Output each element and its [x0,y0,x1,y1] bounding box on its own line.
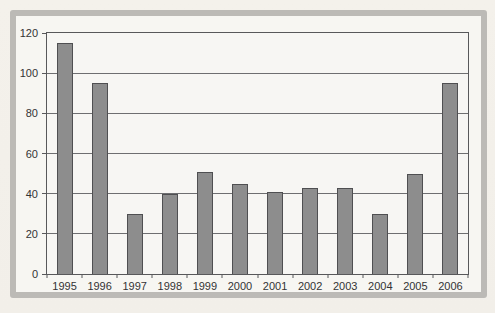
y-axis-tick-80 [42,113,47,114]
y-axis-label-40: 40 [8,188,38,200]
bar-1995 [57,43,73,274]
bar-1997 [127,214,143,274]
bar-2000 [232,184,248,274]
chart-frame: 0204060801001201995199619971998199920002… [10,10,487,298]
x-axis-label-2006: 2006 [432,280,468,292]
y-axis-tick-20 [42,233,47,234]
y-axis-label-120: 120 [8,27,38,39]
x-axis-tick-5 [222,274,223,278]
gridline-y-40 [47,193,468,194]
x-axis-label-1998: 1998 [152,280,188,292]
x-axis-tick-6 [257,274,258,278]
x-axis-label-2002: 2002 [292,280,328,292]
gridline-y-100 [47,73,468,74]
x-axis-tick-3 [152,274,153,278]
x-axis-tick-1 [82,274,83,278]
x-axis-label-2003: 2003 [327,280,363,292]
bar-1999 [197,172,213,274]
x-axis-tick-10 [397,274,398,278]
x-axis-tick-8 [327,274,328,278]
x-axis-tick-7 [292,274,293,278]
bar-2002 [302,188,318,274]
x-axis-label-1997: 1997 [117,280,153,292]
y-axis-label-100: 100 [8,67,38,79]
y-axis-label-80: 80 [8,107,38,119]
y-axis-label-0: 0 [8,268,38,280]
y-axis-tick-60 [42,153,47,154]
y-axis-tick-120 [42,33,47,34]
bar-1996 [92,83,108,274]
y-axis-label-20: 20 [8,228,38,240]
y-axis-tick-100 [42,73,47,74]
gridline-y-60 [47,153,468,154]
y-axis-label-60: 60 [8,148,38,160]
x-axis-label-1999: 1999 [187,280,223,292]
x-axis-label-2001: 2001 [257,280,293,292]
x-axis-tick-12 [468,274,469,278]
x-axis-tick-2 [117,274,118,278]
bar-2001 [267,192,283,274]
x-axis-label-1996: 1996 [82,280,118,292]
y-axis-tick-40 [42,193,47,194]
x-axis-label-2004: 2004 [362,280,398,292]
x-axis-label-1995: 1995 [47,280,83,292]
x-axis-tick-11 [432,274,433,278]
gridline-y-80 [47,113,468,114]
bar-2005 [407,174,423,274]
x-axis-label-2000: 2000 [222,280,258,292]
x-axis-tick-4 [187,274,188,278]
x-axis-label-2005: 2005 [397,280,433,292]
plot-area: 0204060801001201995199619971998199920002… [46,32,469,275]
x-axis-tick-9 [362,274,363,278]
gridline-y-20 [47,233,468,234]
bar-2006 [442,83,458,274]
bar-2004 [372,214,388,274]
x-axis-tick-0 [47,274,48,278]
bar-1998 [162,194,178,274]
bar-2003 [337,188,353,274]
